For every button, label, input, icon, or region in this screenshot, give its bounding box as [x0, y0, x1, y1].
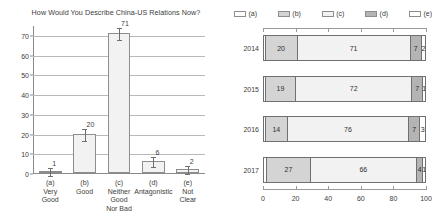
error-bar-cap	[185, 166, 190, 167]
legend-swatch	[278, 11, 290, 17]
legend-swatch	[365, 11, 377, 17]
x-category-line: Nor Bad	[99, 205, 139, 214]
x-category-line: Not	[168, 188, 208, 197]
segment-value-label: 7	[415, 85, 419, 92]
legend-label: (d)	[380, 10, 389, 17]
error-bar-cap	[117, 28, 122, 29]
x-axis-line	[33, 173, 205, 174]
x-category-line: Good	[99, 196, 139, 205]
figure-root: How Would You Describe China-US Relation…	[0, 0, 440, 224]
legend-item[interactable]: (b)	[278, 10, 301, 17]
segment-value-label: 2	[422, 45, 425, 52]
error-bar-cap	[48, 168, 53, 169]
segment-value-label: 71	[350, 45, 358, 52]
legend-label: (b)	[292, 10, 301, 17]
segment-value-label: 1	[423, 166, 425, 173]
x-category-line: (e)	[168, 179, 208, 188]
stacked-bar-row: 2016147673	[263, 116, 426, 142]
bar-value-label: 6	[155, 149, 159, 156]
x-tick-label: 80	[389, 195, 397, 202]
stacked-bar-segment: 1	[423, 158, 425, 182]
legend-item[interactable]: (e)	[409, 10, 432, 17]
bar-value-label: 20	[87, 121, 95, 128]
segment-value-label: 72	[350, 85, 358, 92]
error-bar	[85, 129, 86, 141]
stacked-bar-segment: 72	[296, 77, 412, 101]
y-tick-mark	[30, 55, 33, 56]
row-year-label: 2017	[243, 166, 259, 173]
stacked-bar-segment: 27	[267, 158, 310, 182]
x-category-line: Clear	[168, 196, 208, 205]
segment-value-label: 3	[421, 126, 425, 133]
y-tick-mark	[30, 154, 33, 155]
stacked-bar-segment: 3	[420, 117, 425, 141]
legend-item[interactable]: (a)	[234, 10, 257, 17]
error-bar-cap	[185, 174, 190, 175]
segment-value-label: 76	[344, 126, 352, 133]
segment-value-label: 27	[285, 166, 293, 173]
error-bar-cap	[82, 129, 87, 130]
x-tick-mark-top	[361, 28, 362, 32]
stacked-bar-segment: 14	[266, 117, 288, 141]
segment-value-label: 14	[272, 126, 280, 133]
segment-value-label: 4	[418, 166, 422, 173]
y-tick-mark	[30, 35, 33, 36]
y-axis-line	[33, 26, 34, 174]
stacked-bar-row: 2017276641	[263, 157, 426, 183]
row-year-label: 2016	[243, 126, 259, 133]
y-tick-mark	[30, 134, 33, 135]
x-tick-label: 20	[292, 195, 300, 202]
stacked-bar-chart-panel: (a)(b)(c)(d)(e) 020406080100201420717220…	[216, 0, 440, 224]
stacked-bar-segment: 7	[412, 77, 423, 101]
legend-item[interactable]: (d)	[365, 10, 388, 17]
stacked-bar-segment: 66	[311, 158, 417, 182]
segment-value-label: 19	[277, 85, 285, 92]
bar-chart-panel: How Would You Describe China-US Relation…	[0, 0, 216, 224]
x-tick-mark-top	[426, 28, 427, 32]
stacked-bar-segment: 1	[423, 77, 425, 101]
error-bar-cap	[151, 157, 156, 158]
bottom-axis-line	[263, 189, 426, 190]
y-tick-label: 30	[21, 111, 29, 118]
legend: (a)(b)(c)(d)(e)	[228, 10, 438, 17]
legend-label: (e)	[423, 10, 432, 17]
error-bar	[153, 157, 154, 167]
y-tick-label: 50	[21, 72, 29, 79]
x-tick-mark-top	[393, 28, 394, 32]
segment-value-label: 1	[423, 85, 425, 92]
stacked-bar-segment: 19	[266, 77, 297, 101]
x-category-line: Good	[30, 196, 70, 205]
legend-swatch	[409, 11, 421, 17]
y-tick-mark	[30, 174, 33, 175]
y-tick-label: 10	[21, 151, 29, 158]
error-bar-cap	[48, 176, 53, 177]
x-tick-mark	[263, 186, 264, 190]
legend-label: (a)	[249, 10, 258, 17]
x-tick-mark-top	[263, 28, 264, 32]
bar-value-label: 71	[121, 20, 129, 27]
y-tick-mark	[30, 114, 33, 115]
bar-chart-plot-area: 0102030405060701(a)VeryGood20(b)Good71(c…	[33, 26, 205, 174]
segment-value-label: 20	[277, 45, 285, 52]
stacked-bar: 276641	[263, 157, 426, 183]
error-bar	[119, 28, 120, 40]
stacked-bar: 147673	[263, 116, 426, 142]
stacked-bar-segment: 76	[288, 117, 409, 141]
stacked-bar: 197271	[263, 76, 426, 102]
stacked-chart-plot-area: 0204060801002014207172201519727120161476…	[263, 28, 426, 190]
error-bar-cap	[151, 167, 156, 168]
y-tick-label: 70	[21, 32, 29, 39]
stacked-bar-segment: 2	[422, 36, 425, 60]
stacked-bar-segment: 71	[298, 36, 411, 60]
segment-value-label: 7	[414, 45, 418, 52]
error-bar	[50, 168, 51, 176]
stacked-bar: 207172	[263, 35, 426, 61]
x-tick-label: 100	[420, 195, 432, 202]
segment-value-label: 7	[412, 126, 416, 133]
bar-value-label: 2	[190, 158, 194, 165]
legend-item[interactable]: (c)	[322, 10, 345, 17]
y-tick-label: 0	[25, 171, 29, 178]
x-tick-mark	[361, 186, 362, 190]
stacked-bar-row: 2015197271	[263, 76, 426, 102]
x-tick-mark	[393, 186, 394, 190]
